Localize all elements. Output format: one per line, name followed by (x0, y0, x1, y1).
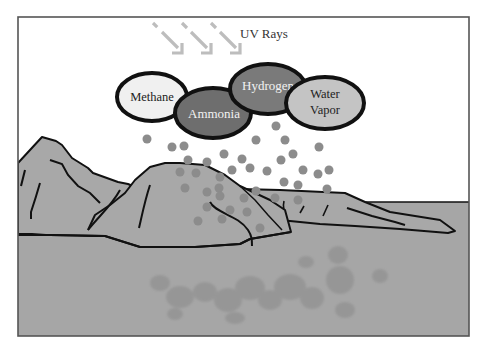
diagram-canvas: UV Rays Methane Ammonia Hydrogen Water V… (0, 0, 485, 352)
gas-label-ammonia: Ammonia (188, 106, 240, 121)
gas-label-water: Water (310, 87, 340, 101)
uv-rays-label: UV Rays (240, 26, 288, 41)
gas-label-methane: Methane (130, 90, 174, 104)
gas-label-vapor: Vapor (310, 103, 341, 117)
gas-label-hydrogen: Hydrogen (242, 78, 294, 93)
gas-water-vapor: Water Vapor (286, 77, 364, 129)
